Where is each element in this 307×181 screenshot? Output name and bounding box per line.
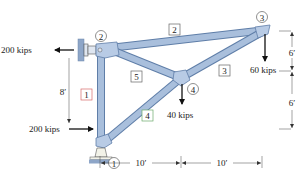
svg-text:4: 4 [191, 85, 196, 95]
member-label-5: 5 [131, 71, 142, 82]
svg-text:10′: 10′ [136, 158, 147, 168]
svg-text:3: 3 [260, 13, 265, 23]
svg-text:40 kips: 40 kips [167, 110, 194, 120]
dimension-left-8ft: 8′ [60, 58, 69, 123]
svg-text:6′: 6′ [289, 48, 296, 58]
dimension-bottom-horizontal: 10′ 10′ [100, 156, 262, 168]
svg-text:3: 3 [222, 66, 227, 76]
svg-text:10′: 10′ [217, 158, 228, 168]
load-node1-200kips: 200 kips [29, 124, 93, 134]
member-label-3: 3 [219, 65, 230, 76]
node-label-4: 4 [188, 84, 199, 95]
member-label-2: 2 [169, 24, 180, 35]
node-label-2: 2 [96, 31, 107, 42]
wall-support [78, 39, 96, 61]
svg-text:60 kips: 60 kips [250, 65, 277, 75]
truss-diagram: 2 3 4 1 1 2 3 4 5 200 kips 200 kips [0, 0, 307, 181]
truss-members [101, 30, 266, 143]
svg-text:4: 4 [145, 111, 150, 121]
dimension-right-vertical: 6′ 6′ [279, 31, 295, 129]
svg-text:200 kips: 200 kips [1, 45, 32, 55]
svg-text:2: 2 [99, 32, 104, 42]
svg-text:1: 1 [84, 90, 89, 100]
svg-text:6′: 6′ [289, 98, 296, 108]
member-label-4: 4 [142, 110, 153, 121]
load-node2-200kips: 200 kips [1, 45, 74, 55]
svg-text:1: 1 [112, 159, 117, 169]
svg-text:5: 5 [134, 72, 139, 82]
svg-text:8′: 8′ [60, 87, 67, 97]
svg-text:2: 2 [172, 25, 177, 35]
node-label-3: 3 [257, 12, 268, 23]
member-label-1: 1 [81, 89, 92, 100]
svg-text:200 kips: 200 kips [29, 124, 60, 134]
